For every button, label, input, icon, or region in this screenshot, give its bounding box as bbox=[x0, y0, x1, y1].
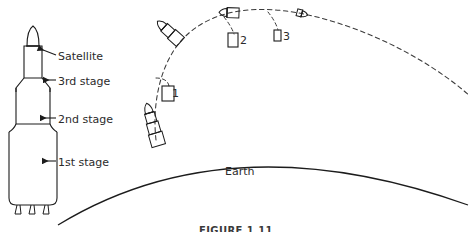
rocket-after-stage1-separation bbox=[153, 17, 184, 47]
label-second-stage: 2nd stage bbox=[58, 114, 113, 125]
satellite-nose-cone bbox=[27, 26, 39, 46]
stage-separation-paths bbox=[156, 12, 278, 86]
label-third-stage: 3rd stage bbox=[58, 76, 110, 87]
drop-path-stage1 bbox=[156, 78, 169, 86]
label-satellite: Satellite bbox=[58, 51, 103, 62]
trajectory-arc bbox=[155, 9, 470, 140]
engine-nozzles bbox=[15, 205, 49, 214]
flight-trajectory bbox=[155, 9, 470, 140]
earth-horizon bbox=[58, 167, 468, 225]
drop-path-stage3 bbox=[268, 12, 278, 30]
rocket-at-launch bbox=[140, 101, 166, 147]
separation-marker-label-3: 3 bbox=[283, 31, 290, 42]
drop-path-stage2 bbox=[224, 17, 234, 34]
first-stage-body bbox=[9, 132, 57, 205]
interstage-taper-lower bbox=[9, 124, 57, 132]
third-stage-body bbox=[24, 46, 42, 78]
leader-satellite bbox=[38, 48, 56, 55]
figure-canvas: Satellite 3rd stage 2nd stage 1st stage … bbox=[0, 0, 472, 232]
separation-marker-label-1: 1 bbox=[172, 88, 179, 99]
jettisoned-stage-2 bbox=[228, 33, 238, 47]
separation-marker-label-2: 2 bbox=[240, 35, 247, 46]
label-first-stage: 1st stage bbox=[58, 157, 109, 168]
earth-label: Earth bbox=[225, 165, 255, 178]
second-stage-body bbox=[16, 88, 50, 124]
satellite-in-orbit bbox=[296, 8, 309, 19]
rocket-cutaway bbox=[9, 26, 57, 214]
figure-caption: FIGURE 1.11 bbox=[0, 225, 472, 232]
jettisoned-stage-3 bbox=[274, 30, 281, 41]
jettisoned-stages bbox=[162, 30, 281, 101]
callout-leaders bbox=[38, 48, 56, 161]
